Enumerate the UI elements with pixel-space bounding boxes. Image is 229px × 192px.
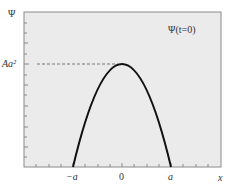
- chart-figure: Ψ Aa² Ψ(t=0) −a 0 a x: [0, 0, 229, 192]
- y-tick-label-aa2: Aa²: [1, 58, 17, 69]
- y-axis-label: Ψ: [8, 8, 16, 19]
- x-tick-label-neg-a: −a: [66, 171, 78, 182]
- x-axis-label: x: [217, 172, 223, 183]
- annotation-psi-t0: Ψ(t=0): [168, 24, 195, 36]
- x-tick-label-zero: 0: [119, 171, 124, 182]
- plot-area: [24, 12, 221, 167]
- x-tick-label-a: a: [168, 171, 173, 182]
